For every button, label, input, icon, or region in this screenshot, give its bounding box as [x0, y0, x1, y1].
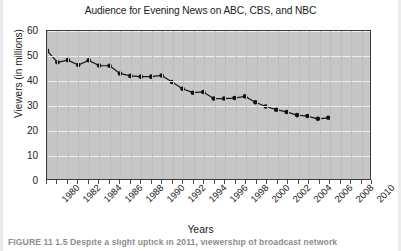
gridline-vertical [288, 31, 289, 179]
gridline-vertical [57, 31, 58, 179]
x-axis-tick-label: 2008 [353, 182, 376, 205]
x-axis-tick-label: 1990 [164, 182, 187, 205]
gridline-horizontal [47, 81, 370, 82]
gridline-vertical [141, 31, 142, 179]
gridline-vertical [299, 31, 300, 179]
gridline-vertical [236, 31, 237, 179]
x-axis-tick-label: 2004 [311, 182, 334, 205]
gridline-vertical [173, 31, 174, 179]
x-axis-tick-label: 1980 [59, 182, 82, 205]
x-axis-tick-labels: 1980198219841986198819901992199419961998… [46, 182, 371, 222]
gridline-horizontal [47, 56, 370, 57]
gridline-horizontal [47, 131, 370, 132]
x-axis-tick-label: 1998 [248, 182, 271, 205]
x-axis-tick-label: 1984 [101, 182, 124, 205]
x-axis-tick-label: 2002 [290, 182, 313, 205]
gridline-vertical [225, 31, 226, 179]
gridline-vertical [330, 31, 331, 179]
gridline-vertical [351, 31, 352, 179]
gridline-vertical [47, 31, 48, 179]
gridline-vertical [341, 31, 342, 179]
gridline-horizontal [47, 31, 370, 32]
gridline-vertical [110, 31, 111, 179]
gridline-vertical [99, 31, 100, 179]
gridline-vertical [257, 31, 258, 179]
gridline-horizontal [47, 106, 370, 107]
x-axis-tick-label: 1986 [122, 182, 145, 205]
gridline-vertical [131, 31, 132, 179]
x-axis-tick-mark [371, 180, 372, 184]
chart-title: Audience for Evening News on ABC, CBS, a… [0, 5, 401, 16]
x-axis-tick-label: 2006 [332, 182, 355, 205]
plot-area [46, 30, 371, 180]
gridline-vertical [162, 31, 163, 179]
gridline-horizontal [47, 156, 370, 157]
gridline-vertical [120, 31, 121, 179]
gridline-vertical [278, 31, 279, 179]
gridline-vertical [246, 31, 247, 179]
gridline-vertical [78, 31, 79, 179]
gridline-vertical [89, 31, 90, 179]
x-axis-tick-label: 1996 [227, 182, 250, 205]
x-axis-tick-label: 2010 [374, 182, 397, 205]
figure-container: Audience for Evening News on ABC, CBS, a… [0, 0, 401, 251]
gridline-vertical [320, 31, 321, 179]
plot-inner [47, 31, 370, 179]
y-axis-tick-label: 0 [0, 175, 42, 186]
gridline-vertical [194, 31, 195, 179]
x-axis-tick-label: 1982 [80, 182, 103, 205]
gridline-vertical [309, 31, 310, 179]
x-axis-tick-label: 1988 [143, 182, 166, 205]
gridline-vertical [152, 31, 153, 179]
x-axis-tick-label: 2000 [269, 182, 292, 205]
gridline-vertical [68, 31, 69, 179]
gridline-vertical [267, 31, 268, 179]
gridline-vertical [183, 31, 184, 179]
x-axis-tick-label: 1992 [185, 182, 208, 205]
figure-caption-strip: FIGURE 11 1.5 Despite a slight uptick in… [0, 239, 401, 251]
gridline-vertical [362, 31, 363, 179]
x-axis-tick-label: 1994 [206, 182, 229, 205]
gridline-vertical [215, 31, 216, 179]
gridline-vertical [204, 31, 205, 179]
y-axis-title: Viewers (in millions) [13, 0, 24, 154]
figure-caption: FIGURE 11 1.5 Despite a slight uptick in… [8, 239, 337, 247]
x-axis-title: Years [0, 224, 401, 235]
